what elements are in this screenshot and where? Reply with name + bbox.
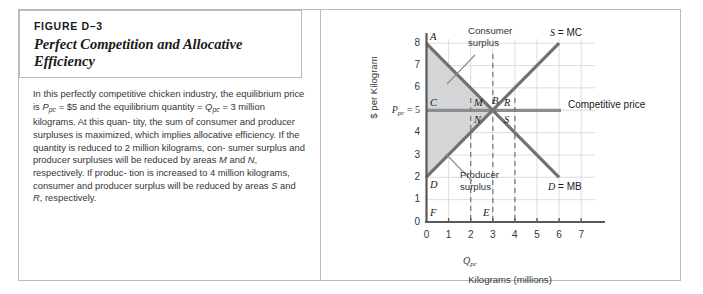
figure-caption: In this perfectly competitive chicken in…	[33, 88, 305, 205]
x-tick-3: 3	[483, 229, 503, 240]
y-tick-0: 0	[398, 216, 420, 227]
point-label-S: S	[504, 114, 509, 125]
figure-title-line-2: Efficiency	[34, 53, 95, 69]
y-tick-6: 6	[398, 81, 420, 92]
y-tick-7: 7	[398, 59, 420, 70]
chart-panel: $ per Kilogram Kilograms (millions) Qpc	[320, 9, 681, 281]
figure-title-line-1: Perfect Competition and Allocative	[34, 36, 242, 52]
point-label-F: F	[430, 207, 436, 218]
price-axis-label: Ppc = 5	[364, 104, 420, 117]
consumer-surplus-annotation: Consumersurplus	[468, 25, 538, 48]
point-label-R: R	[504, 97, 510, 108]
point-label-C: C	[430, 97, 437, 108]
y-tick-8: 8	[398, 37, 420, 48]
x-tick-2: 2	[461, 229, 481, 240]
x-tick-0: 0	[417, 229, 437, 240]
y-tick-4: 4	[398, 126, 420, 137]
figure-title-box: FIGURE D–3 Perfect Competition and Alloc…	[19, 10, 302, 78]
plot-area: 8 7 6 4 3 2 1 0 Ppc = 5 0 1 2 3 4 5 6 7 …	[320, 9, 681, 281]
x-tick-6: 6	[549, 229, 569, 240]
point-label-D: D	[430, 179, 438, 190]
point-label-M: M	[474, 97, 483, 108]
x-tick-7: 7	[571, 229, 591, 240]
point-label-E: E	[483, 207, 489, 218]
y-tick-2: 2	[398, 171, 420, 182]
y-tick-3: 3	[398, 149, 420, 160]
producer-surplus-annotation: Producersurplus	[460, 169, 530, 192]
x-tick-4: 4	[505, 229, 525, 240]
figure-number: FIGURE D–3	[34, 20, 287, 32]
x-tick-1: 1	[439, 229, 459, 240]
point-label-B: B	[492, 95, 498, 106]
competitive-price-annotation: Competitive price	[568, 99, 645, 110]
y-tick-1: 1	[398, 193, 420, 204]
x-tick-5: 5	[527, 229, 547, 240]
point-label-A: A	[430, 31, 436, 42]
figure-title: Perfect Competition and Allocative Effic…	[34, 36, 287, 70]
point-label-N: N	[474, 114, 481, 125]
supply-curve-label: S = MC	[550, 27, 582, 38]
demand-curve-label: D = MB	[548, 181, 582, 192]
plot-svg	[320, 9, 681, 281]
